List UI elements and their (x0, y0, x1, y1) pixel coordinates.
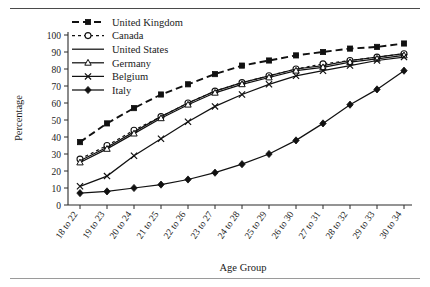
x-tick-label: 24 to 28 (216, 209, 242, 240)
x-tick-label: 30 to 34 (378, 209, 404, 240)
y-tick-label: 90 (52, 48, 62, 58)
x-tick-label: 20 to 24 (108, 209, 134, 240)
legend-label: Canada (112, 30, 144, 41)
legend-item-italy[interactable]: Italy (72, 85, 132, 96)
x-tick-label: 19 to 23 (81, 209, 107, 240)
x-tick-label: 25 to 29 (243, 209, 269, 240)
x-tick-label: 23 to 27 (189, 209, 215, 240)
x-axis-ticks: 18 to 2219 to 2320 to 2421 to 2522 to 26… (54, 205, 404, 241)
legend-item-united-kingdom[interactable]: United Kingdom (72, 17, 183, 28)
legend-label: Germany (112, 58, 152, 69)
y-tick-label: 40 (52, 133, 62, 143)
legend-item-belgium[interactable]: Belgium (72, 71, 148, 82)
series-germany (77, 52, 407, 165)
legend-label: Belgium (112, 71, 148, 82)
line-chart: 0102030405060708090100 18 to 2219 to 232… (0, 0, 430, 287)
y-tick-label: 50 (52, 116, 62, 126)
legend-label: United States (112, 44, 168, 55)
series-united-states (80, 54, 404, 161)
y-tick-label: 100 (47, 31, 62, 41)
x-tick-label: 27 to 31 (297, 209, 323, 240)
y-tick-label: 0 (56, 201, 61, 211)
x-tick-label: 22 to 26 (162, 209, 188, 240)
x-axis-title: Age Group (220, 262, 267, 273)
y-tick-label: 60 (52, 99, 62, 109)
legend-label: United Kingdom (112, 17, 183, 28)
legend-label: Italy (112, 85, 132, 96)
y-tick-label: 80 (52, 65, 62, 75)
y-axis-title: Percentage (13, 95, 24, 141)
x-tick-label: 28 to 32 (324, 209, 350, 240)
y-axis-ticks: 0102030405060708090100 (47, 31, 68, 211)
x-tick-label: 29 to 33 (351, 209, 377, 240)
y-tick-label: 10 (52, 184, 62, 194)
chart-legend: United KingdomCanadaUnited StatesGermany… (72, 17, 183, 96)
legend-item-canada[interactable]: Canada (72, 30, 144, 41)
x-tick-label: 21 to 25 (135, 209, 161, 240)
y-tick-label: 20 (52, 167, 62, 177)
x-tick-label: 26 to 30 (270, 209, 296, 240)
y-tick-label: 30 (52, 150, 62, 160)
x-tick-label: 18 to 22 (54, 209, 80, 240)
legend-item-united-states[interactable]: United States (72, 44, 168, 55)
y-tick-label: 70 (52, 82, 62, 92)
legend-item-germany[interactable]: Germany (72, 58, 152, 69)
